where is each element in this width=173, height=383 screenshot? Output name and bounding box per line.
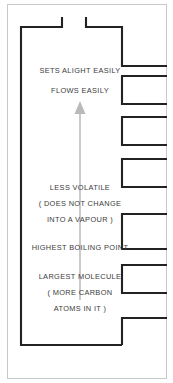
tray-notch-3 — [122, 159, 167, 187]
tray-notches — [122, 76, 167, 293]
tray-notch-2 — [122, 117, 167, 145]
label-less-volatile: LESS VOLATILE — [50, 183, 110, 192]
column-top-right-stub — [86, 17, 167, 66]
label-more-carbon: ( MORE CARBON — [48, 288, 113, 297]
label-does-not-change: ( DOES NOT CHANGE — [39, 199, 122, 208]
distillation-diagram: SETS ALIGHT EASILY FLOWS EASILY LESS VOL… — [0, 0, 173, 383]
tray-notch-4 — [122, 214, 167, 249]
label-highest-boiling-point: HIGHEST BOILING POINT — [32, 243, 129, 252]
diagram-canvas: SETS ALIGHT EASILY FLOWS EASILY LESS VOL… — [0, 0, 173, 383]
label-into-a-vapour: INTO A VAPOUR ) — [47, 215, 113, 224]
label-largest-molecule: LARGEST MOLECULE — [39, 272, 122, 281]
tray-notch-5 — [122, 265, 167, 293]
column-bottom-step — [122, 318, 167, 345]
label-flows-easily: FLOWS EASILY — [51, 86, 109, 95]
label-sets-alight-easily: SETS ALIGHT EASILY — [39, 66, 120, 75]
tray-notch-1 — [122, 76, 167, 104]
arrow-head-icon — [75, 101, 86, 114]
label-atoms-in-it: ATOMS IN IT ) — [54, 304, 107, 313]
